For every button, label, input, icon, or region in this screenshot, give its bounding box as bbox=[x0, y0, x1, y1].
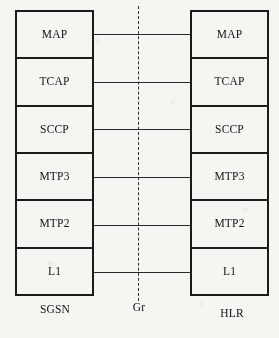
sgsn-layer-mtp3: MTP3 bbox=[17, 154, 92, 201]
sgsn-layer-tcap: TCAP bbox=[17, 59, 92, 106]
hlr-layer-label-tcap: TCAP bbox=[214, 76, 244, 88]
sgsn-protocol-stack: MAP TCAP SCCP MTP3 MTP2 L1 bbox=[15, 10, 94, 296]
gr-interface-dashed-line bbox=[138, 6, 139, 301]
hlr-layer-sccp: SCCP bbox=[192, 107, 267, 154]
sgsn-layer-label-l1: L1 bbox=[48, 266, 61, 278]
peer-connector-mtp3 bbox=[93, 177, 191, 178]
hlr-layer-mtp3: MTP3 bbox=[192, 154, 267, 201]
hlr-layer-mtp2: MTP2 bbox=[192, 201, 267, 248]
sgsn-layer-label-map: MAP bbox=[42, 29, 68, 41]
hlr-layer-l1: L1 bbox=[192, 249, 267, 294]
hlr-layer-label-sccp: SCCP bbox=[215, 124, 244, 136]
hlr-caption: HLR bbox=[185, 307, 279, 319]
sgsn-layer-label-sccp: SCCP bbox=[40, 124, 69, 136]
peer-connector-mtp2 bbox=[93, 225, 191, 226]
sgsn-layer-map: MAP bbox=[17, 12, 92, 59]
sgsn-layer-label-mtp2: MTP2 bbox=[39, 218, 69, 230]
sgsn-layer-label-tcap: TCAP bbox=[39, 76, 69, 88]
hlr-protocol-stack: MAP TCAP SCCP MTP3 MTP2 L1 bbox=[190, 10, 269, 296]
sgsn-layer-label-mtp3: MTP3 bbox=[39, 171, 69, 183]
peer-connector-l1 bbox=[93, 272, 191, 273]
sgsn-layer-mtp2: MTP2 bbox=[17, 201, 92, 248]
protocol-stack-diagram: MAP TCAP SCCP MTP3 MTP2 L1 MAP TCAP SCCP… bbox=[0, 0, 279, 338]
hlr-layer-tcap: TCAP bbox=[192, 59, 267, 106]
gr-caption: Gr bbox=[120, 301, 158, 313]
peer-connector-tcap bbox=[93, 82, 191, 83]
peer-connector-map bbox=[93, 34, 191, 35]
peer-connector-sccp bbox=[93, 129, 191, 130]
sgsn-layer-sccp: SCCP bbox=[17, 107, 92, 154]
sgsn-layer-l1: L1 bbox=[17, 249, 92, 294]
hlr-layer-label-l1: L1 bbox=[223, 266, 236, 278]
sgsn-caption: SGSN bbox=[0, 303, 110, 315]
hlr-layer-map: MAP bbox=[192, 12, 267, 59]
hlr-layer-label-mtp3: MTP3 bbox=[214, 171, 244, 183]
hlr-layer-label-mtp2: MTP2 bbox=[214, 218, 244, 230]
hlr-layer-label-map: MAP bbox=[217, 29, 243, 41]
